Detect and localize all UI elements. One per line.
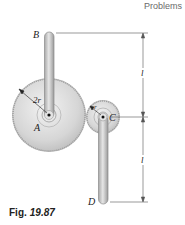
bar-AB (45, 32, 55, 120)
label-radius-small: r (94, 103, 97, 111)
figure-caption: Fig.19.87 (9, 207, 55, 218)
caption-number: 19.87 (30, 207, 55, 218)
gear-bar-diagram: B A C D 2r r l l (0, 0, 185, 225)
caption-prefix: Fig. (9, 207, 27, 218)
label-D: D (87, 196, 96, 207)
label-length-upper: l (141, 68, 144, 78)
label-radius-large: 2r (33, 95, 42, 105)
label-A: A (33, 122, 41, 133)
label-length-lower: l (141, 155, 144, 165)
label-C: C (109, 112, 116, 123)
label-B: B (33, 29, 39, 40)
bar-CD (99, 113, 109, 204)
